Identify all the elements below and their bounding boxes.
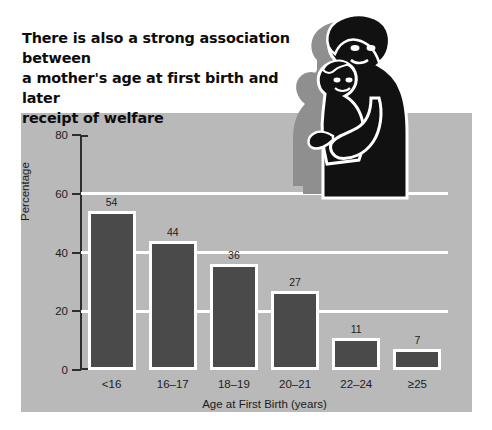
y-axis-title: Percentage (19, 162, 31, 221)
bar-value-label: 7 (393, 334, 441, 346)
figure-headline: There is also a strong association betwe… (22, 28, 310, 128)
x-tick-label: 20–21 (271, 378, 319, 390)
y-tick-label-60: 60 (55, 188, 68, 200)
x-tick-label: ≥25 (393, 378, 441, 390)
bar-group: 1122–24 (332, 338, 380, 370)
bar-group: 54<16 (88, 211, 136, 370)
y-tick-label-0: 0 (62, 364, 68, 376)
bar (149, 241, 197, 370)
x-tick-label: 16–17 (149, 378, 197, 390)
gridline-40 (81, 251, 448, 254)
gridline-20 (81, 310, 448, 313)
bar-group: 2720–21 (271, 291, 319, 370)
y-axis-top-cap (80, 135, 88, 137)
bar-value-label: 11 (332, 323, 380, 335)
x-axis-title: Age at First Birth (years) (81, 398, 448, 410)
bar-value-label: 36 (210, 249, 258, 261)
bar (332, 338, 380, 370)
y-tick-40 (72, 252, 81, 254)
y-tick-80 (72, 134, 81, 136)
bar-value-label: 44 (149, 226, 197, 238)
chart-panel: Percentage 020406080 54<164416–173618–19… (21, 113, 472, 412)
bar (271, 291, 319, 370)
y-tick-label-40: 40 (55, 247, 68, 259)
chart-figure: There is also a strong association betwe… (0, 0, 492, 430)
bar-group: 3618–19 (210, 264, 258, 370)
bar (88, 211, 136, 370)
x-tick-label: 18–19 (210, 378, 258, 390)
x-tick-label: 22–24 (332, 378, 380, 390)
bar-value-label: 54 (88, 196, 136, 208)
y-tick-20 (72, 310, 81, 312)
bar (210, 264, 258, 370)
bar (393, 349, 441, 370)
bar-group: 4416–17 (149, 241, 197, 370)
bar-value-label: 27 (271, 276, 319, 288)
bar-group: 7≥25 (393, 349, 441, 370)
y-tick-label-20: 20 (55, 305, 68, 317)
y-tick-60 (72, 193, 81, 195)
y-tick-label-80: 80 (55, 129, 68, 141)
y-tick-0 (72, 369, 81, 371)
gridline-60 (81, 192, 448, 195)
plot-area: 020406080 54<164416–173618–192720–211122… (81, 135, 448, 370)
x-tick-label: <16 (88, 378, 136, 390)
